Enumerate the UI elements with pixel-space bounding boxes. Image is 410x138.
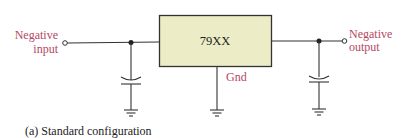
output-label-line2: output [349,40,380,54]
gnd-label: Gnd [226,70,247,84]
input-wire [67,42,159,43]
input-ground-icon [124,110,138,116]
regulator-ground-icon [210,110,224,116]
input-label-line1: Negative [15,28,58,42]
input-capacitor-icon [121,43,141,111]
output-capacitor-icon [309,41,329,109]
output-terminal [342,39,347,44]
circuit-diagram: Negative input 79XX Gnd [0,0,410,138]
output-ground-icon [312,109,326,115]
figure-caption: (a) Standard configuration [25,124,152,138]
regulator-label: 79XX [200,34,231,48]
output-label-line1: Negative [349,27,392,41]
input-label-line2: input [33,42,58,56]
input-terminal [63,41,68,46]
